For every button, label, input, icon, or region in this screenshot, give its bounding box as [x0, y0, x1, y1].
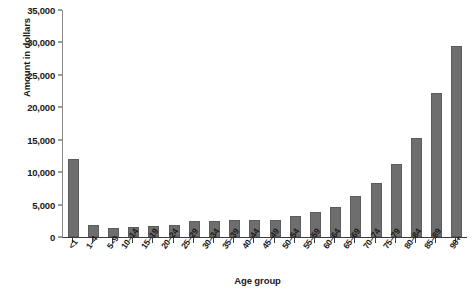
bar-slot	[406, 10, 426, 237]
bar-slot	[204, 10, 224, 237]
bar-slot	[386, 10, 406, 237]
bar-slot	[103, 10, 123, 237]
bar	[431, 93, 442, 237]
bar-slot	[245, 10, 265, 237]
bar-chart: Amount in dollars 05,00010,00015,00020,0…	[0, 0, 475, 294]
bar-slot	[285, 10, 305, 237]
bar-slot	[164, 10, 184, 237]
bar	[411, 138, 422, 237]
y-axis-tick-label: 20,000	[27, 102, 55, 113]
y-axis-tick-label: 10,000	[27, 167, 55, 178]
x-axis-title: Age group	[0, 275, 475, 286]
y-axis-tick-labels: 05,00010,00015,00020,00025,00030,00035,0…	[10, 0, 62, 294]
y-axis-tick-label: 30,000	[27, 37, 55, 48]
bar-slot	[346, 10, 366, 237]
bar-series	[63, 10, 467, 237]
bar-slot	[326, 10, 346, 237]
y-axis-tick-label: 25,000	[27, 69, 55, 80]
y-axis-tick-label: 0	[50, 232, 55, 243]
bar-slot	[265, 10, 285, 237]
bar-slot	[83, 10, 103, 237]
bar	[68, 159, 79, 237]
y-axis-tick-label: 35,000	[27, 5, 55, 16]
bar-slot	[447, 10, 467, 237]
bar-slot	[366, 10, 386, 237]
bar-slot	[184, 10, 204, 237]
bar-slot	[144, 10, 164, 237]
bar	[391, 164, 402, 237]
y-axis-tick-label: 5,000	[32, 199, 55, 210]
bar-slot	[124, 10, 144, 237]
bar-slot	[63, 10, 83, 237]
bar	[451, 46, 462, 237]
bar-slot	[427, 10, 447, 237]
bar-slot	[305, 10, 325, 237]
bar-slot	[225, 10, 245, 237]
y-axis-tick-label: 15,000	[27, 134, 55, 145]
plot-area	[62, 10, 467, 238]
